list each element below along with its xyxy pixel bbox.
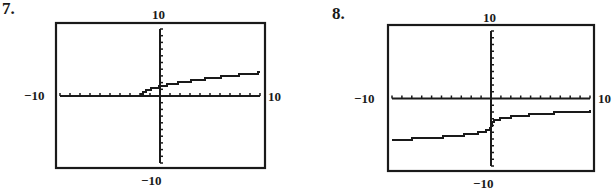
graph7-function-curve [140, 72, 260, 96]
graphing-calculator-plots [0, 0, 615, 196]
